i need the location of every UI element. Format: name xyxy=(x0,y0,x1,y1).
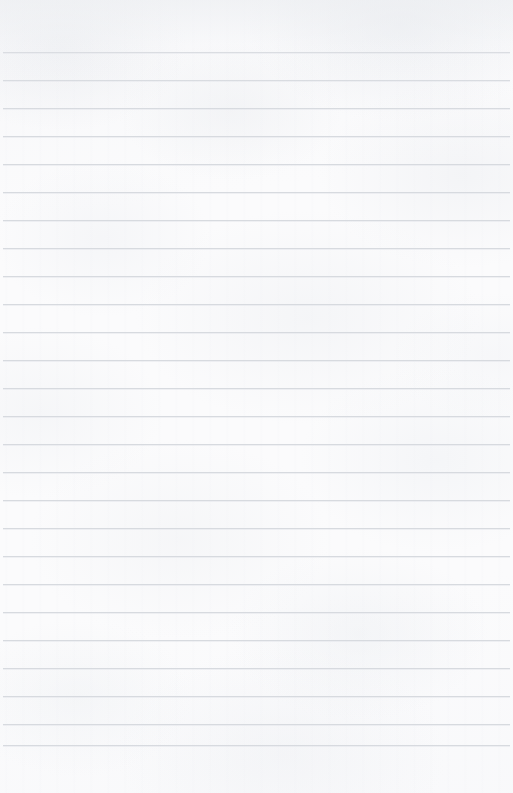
writing-area[interactable] xyxy=(3,52,510,752)
lined-paper-page xyxy=(0,0,513,793)
